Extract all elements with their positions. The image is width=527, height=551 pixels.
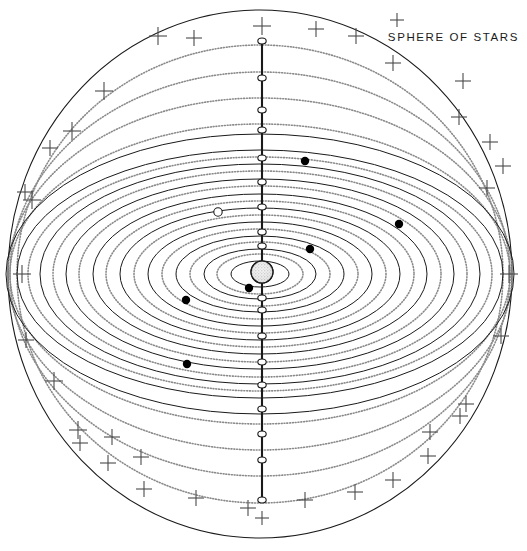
axis-node-15 — [258, 431, 266, 437]
star-12 — [17, 184, 33, 200]
star-9 — [42, 140, 58, 156]
star-4 — [348, 28, 364, 44]
axis-node-11 — [258, 333, 266, 339]
axis-node-7 — [258, 229, 266, 235]
star-20 — [45, 372, 63, 390]
axis-node-16 — [258, 457, 266, 463]
planet-open-left — [214, 208, 222, 216]
star-3 — [308, 21, 324, 37]
star-37 — [255, 511, 269, 525]
planet-left-lower — [183, 360, 191, 368]
planet-upper-right — [301, 157, 309, 165]
axis-node-3 — [258, 127, 266, 133]
star-0 — [253, 17, 271, 35]
star-36 — [390, 13, 404, 27]
star-10 — [451, 109, 467, 125]
axis-node-9 — [258, 295, 266, 301]
star-35 — [385, 472, 401, 488]
axis-node-6 — [258, 204, 266, 210]
star-11 — [482, 134, 498, 150]
star-31 — [188, 490, 204, 506]
axis-node-0 — [258, 38, 266, 44]
planet-inner-lower — [245, 284, 253, 292]
planet-right-outer — [395, 220, 403, 228]
star-28 — [133, 449, 149, 465]
star-14 — [495, 158, 511, 174]
star-6 — [385, 55, 401, 71]
star-32 — [240, 500, 256, 516]
axis-node-5 — [258, 179, 266, 185]
star-30 — [136, 481, 152, 497]
star-7 — [455, 73, 471, 89]
star-23 — [69, 421, 87, 439]
planet-right-mid — [306, 245, 314, 253]
star-33 — [297, 492, 313, 508]
axis-node-8 — [258, 243, 266, 249]
axis-node-13 — [258, 382, 266, 388]
cosmology-diagram — [0, 0, 527, 551]
star-15 — [479, 180, 495, 196]
axis-node-12 — [258, 359, 266, 365]
sphere-of-stars-label: SPHERE OF STARS — [388, 31, 519, 43]
orrery-diagram-canvas: SPHERE OF STARS — [0, 0, 527, 551]
star-2 — [186, 30, 202, 46]
planet-lower-left — [182, 296, 190, 304]
axis-node-2 — [258, 107, 266, 113]
star-25 — [72, 435, 88, 451]
star-24 — [104, 429, 120, 445]
axis-node-4 — [258, 155, 266, 161]
star-34 — [347, 484, 363, 500]
axis-node-1 — [258, 75, 266, 81]
axis-node-14 — [258, 406, 266, 412]
axis-node-17 — [258, 497, 266, 503]
star-5 — [95, 82, 113, 100]
central-body-group — [251, 261, 273, 283]
star-29 — [420, 448, 436, 464]
axis-node-10 — [258, 307, 266, 313]
star-8 — [63, 122, 81, 140]
